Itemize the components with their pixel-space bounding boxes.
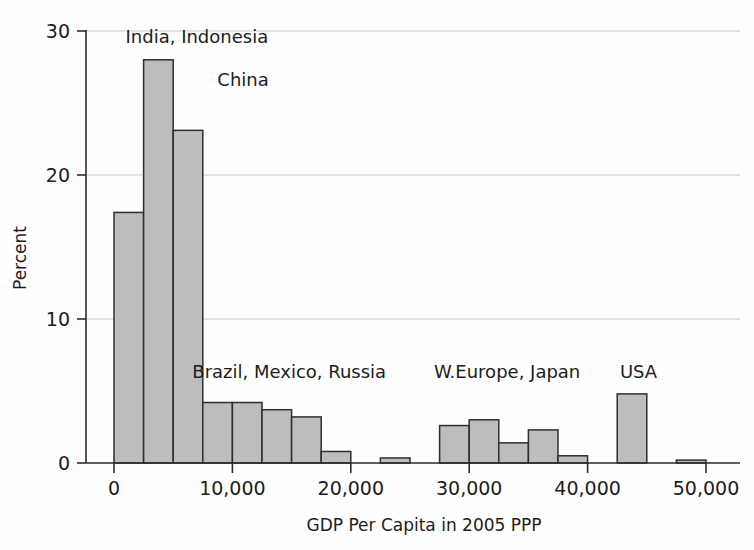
y-tick-label: 20 bbox=[46, 164, 70, 186]
histogram-bar bbox=[292, 417, 322, 463]
x-tick-label: 20,000 bbox=[318, 477, 384, 499]
histogram-bar bbox=[321, 451, 351, 463]
bar-series bbox=[114, 60, 706, 463]
chart-annotation: China bbox=[217, 69, 268, 90]
x-axis-title: GDP Per Capita in 2005 PPP bbox=[306, 515, 541, 535]
histogram-bar bbox=[232, 403, 262, 463]
x-tick-label: 40,000 bbox=[554, 477, 620, 499]
chart-annotation: W.Europe, Japan bbox=[434, 361, 580, 382]
chart-canvas: 010,00020,00030,00040,00050,000 0102030 … bbox=[0, 0, 754, 550]
x-tick-label: 0 bbox=[108, 477, 120, 499]
y-tick-label: 0 bbox=[58, 452, 70, 474]
x-tick-label: 50,000 bbox=[673, 477, 739, 499]
chart-annotation: Brazil, Mexico, Russia bbox=[192, 361, 386, 382]
annotations: India, IndonesiaChinaBrazil, Mexico, Rus… bbox=[126, 26, 658, 383]
y-axis-title: Percent bbox=[10, 226, 30, 290]
histogram-figure: 010,00020,00030,00040,00050,000 0102030 … bbox=[0, 0, 754, 550]
histogram-bar bbox=[114, 212, 144, 463]
y-axis-ticks: 0102030 bbox=[46, 20, 86, 474]
histogram-bar bbox=[528, 430, 558, 463]
histogram-bar bbox=[617, 394, 647, 463]
histogram-bar bbox=[203, 403, 233, 463]
histogram-bar bbox=[558, 456, 588, 463]
y-tick-label: 10 bbox=[46, 308, 70, 330]
chart-annotation: USA bbox=[620, 361, 658, 382]
x-axis-ticks: 010,00020,00030,00040,00050,000 bbox=[108, 463, 739, 499]
chart-annotation: India, Indonesia bbox=[126, 26, 269, 47]
histogram-bar bbox=[262, 410, 292, 463]
x-tick-label: 10,000 bbox=[199, 477, 265, 499]
x-tick-label: 30,000 bbox=[436, 477, 502, 499]
histogram-bar bbox=[499, 443, 529, 463]
histogram-bar bbox=[440, 426, 470, 463]
histogram-bar bbox=[173, 130, 203, 463]
y-tick-label: 30 bbox=[46, 20, 70, 42]
histogram-bar bbox=[469, 420, 499, 463]
histogram-bar bbox=[144, 60, 174, 463]
